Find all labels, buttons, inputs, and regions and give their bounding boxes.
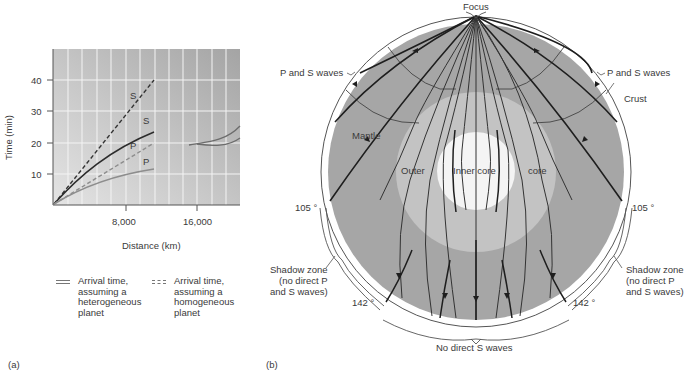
legend-heterogeneous-text: Arrival time, assuming a heterogeneous p…: [78, 276, 141, 318]
no-direct-s-waves-label: No direct S waves: [436, 342, 513, 353]
y-tick-40: 40: [31, 75, 42, 86]
crust-label: Crust: [624, 93, 647, 104]
panel-b-label: (b): [266, 359, 278, 370]
inner-core: [437, 132, 515, 210]
focus-label: Focus: [463, 1, 489, 12]
y-tick-10: 10: [31, 169, 42, 180]
annotation-p-heterogeneous: P: [143, 156, 149, 167]
shadow-zone-right-label: Shadow zone (no direct P and S waves): [626, 264, 684, 297]
mantle-label: Mantle: [352, 130, 381, 141]
shadow-zone-brackets: [320, 12, 632, 344]
p-and-s-waves-left-label: P and S waves: [280, 67, 343, 78]
travel-time-chart: [0, 0, 260, 250]
annotation-s-homogeneous: S: [130, 90, 136, 101]
outer-core-right-label: core: [528, 165, 546, 176]
panel-a: 40 30 20 10 8,000 16,000 Distance (km) T…: [0, 0, 260, 380]
y-tick-20: 20: [31, 138, 42, 149]
x-axis-label: Distance (km): [122, 240, 181, 251]
angle-105-left-label: 105 °: [295, 202, 317, 213]
outer-core: [396, 92, 556, 252]
angle-105-right-label: 105 °: [632, 202, 654, 213]
annotation-s-heterogeneous: S: [143, 115, 149, 126]
legend-dashed-swatch-icon: [152, 280, 166, 284]
legend-solid-swatch-icon: [56, 280, 70, 284]
mantle: [328, 24, 624, 320]
ray-arrowheads: [352, 48, 600, 302]
inner-core-label: Inner core: [453, 165, 496, 176]
angle-142-right-label: 142 °: [573, 297, 595, 308]
y-axis-label: Time (min): [3, 115, 14, 160]
x-tick-8000: 8,000: [112, 216, 136, 227]
wavefronts: [346, 47, 606, 123]
legend: Arrival time, assuming a heterogeneous p…: [54, 276, 254, 326]
leader-lines: [326, 72, 622, 268]
panel-a-label: (a): [8, 359, 20, 370]
outer-core-left-label: Outer: [401, 165, 425, 176]
y-tick-30: 30: [31, 106, 42, 117]
shadow-zone-left-label: Shadow zone (no direct P and S waves): [270, 264, 328, 297]
angle-142-left-label: 142 °: [352, 297, 374, 308]
mantle-rays: [330, 16, 622, 201]
exit-rays: [386, 130, 566, 320]
crust-outline: [321, 17, 631, 327]
legend-homogeneous-text: Arrival time, assuming a homogeneous pla…: [174, 276, 234, 318]
p-and-s-waves-right-label: P and S waves: [607, 67, 670, 78]
x-tick-16000: 16,000: [183, 216, 212, 227]
annotation-p-homogeneous: P: [130, 140, 136, 151]
core-rays: [380, 16, 572, 320]
